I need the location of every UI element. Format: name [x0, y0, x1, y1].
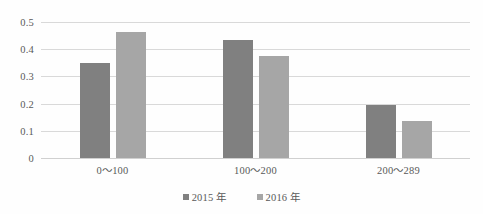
bar-group [223, 22, 289, 158]
y-tick-label: 0 [29, 153, 34, 164]
legend-label: 2016 年 [266, 189, 301, 204]
bar[interactable] [366, 105, 396, 158]
x-tick-label: 100～200 [234, 162, 277, 177]
axis-baseline [41, 158, 470, 159]
bar[interactable] [116, 32, 146, 158]
plot-area [41, 22, 470, 158]
x-tick-label: 0～100 [97, 162, 129, 177]
legend-swatch-icon [257, 194, 263, 200]
bar-chart: 0.50.40.30.20.10 0～100100～200200～289 201… [0, 0, 483, 214]
bar[interactable] [259, 56, 289, 158]
bar[interactable] [402, 121, 432, 158]
bar-group [80, 22, 146, 158]
legend-swatch-icon [183, 194, 189, 200]
y-tick-label: 0.2 [20, 98, 34, 109]
legend-item[interactable]: 2015 年 [183, 189, 227, 204]
bar[interactable] [80, 63, 110, 158]
bar[interactable] [223, 40, 253, 158]
y-tick-label: 0.5 [20, 17, 34, 28]
x-tick-label: 200～289 [377, 162, 420, 177]
y-tick-label: 0.1 [20, 125, 34, 136]
y-axis: 0.50.40.30.20.10 [0, 0, 41, 214]
y-tick-label: 0.3 [20, 71, 34, 82]
x-axis: 0～100100～200200～289 [41, 162, 470, 180]
legend-label: 2015 年 [192, 189, 227, 204]
y-tick-label: 0.4 [20, 44, 34, 55]
legend: 2015 年2016 年 [0, 189, 483, 204]
legend-item[interactable]: 2016 年 [257, 189, 301, 204]
bar-group [366, 22, 432, 158]
